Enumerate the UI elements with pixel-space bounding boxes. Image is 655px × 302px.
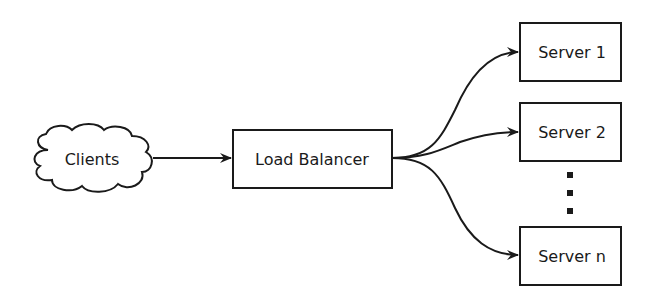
clients-label: Clients xyxy=(65,150,120,169)
edge-load-balancer-to-server-n xyxy=(392,158,518,255)
load-balancer-label: Load Balancer xyxy=(255,150,369,169)
ellipsis-dot xyxy=(567,190,573,196)
server-2-label: Server 2 xyxy=(538,123,606,142)
server-1-label: Server 1 xyxy=(538,43,606,62)
edge-load-balancer-to-server-2 xyxy=(392,132,518,158)
server-n-label: Server n xyxy=(538,247,606,266)
edge-load-balancer-to-server-1 xyxy=(392,52,518,158)
ellipsis-dot xyxy=(567,208,573,214)
ellipsis-dot xyxy=(567,172,573,178)
